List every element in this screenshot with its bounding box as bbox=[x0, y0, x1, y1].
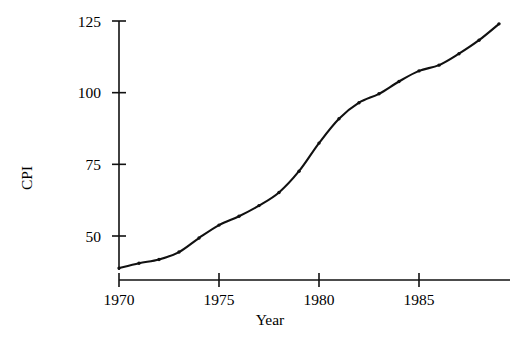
data-point-1988 bbox=[477, 39, 480, 42]
y-tick-label-75: 75 bbox=[86, 156, 102, 173]
data-point-1980 bbox=[317, 141, 320, 144]
data-point-1989 bbox=[497, 22, 500, 25]
x-tick-labels: 1970197519801985 bbox=[104, 291, 435, 308]
data-point-1978 bbox=[277, 191, 280, 194]
chart-figure: 5075100125 1970197519801985 CPI Year bbox=[0, 0, 519, 341]
y-tick-label-125: 125 bbox=[78, 13, 102, 30]
data-point-1975 bbox=[217, 223, 220, 226]
data-point-1985 bbox=[417, 69, 420, 72]
y-axis-title: CPI bbox=[18, 166, 35, 190]
data-point-1986 bbox=[437, 63, 440, 66]
x-tick-label-1975: 1975 bbox=[204, 291, 235, 308]
x-tick-label-1985: 1985 bbox=[404, 291, 435, 308]
data-point-1987 bbox=[457, 52, 460, 55]
data-point-1970 bbox=[117, 266, 120, 269]
data-point-1982 bbox=[357, 101, 360, 104]
x-tick-label-1980: 1980 bbox=[304, 291, 335, 308]
x-axis-title: Year bbox=[256, 311, 285, 328]
data-point-1971 bbox=[137, 262, 140, 265]
data-point-1984 bbox=[397, 80, 400, 83]
data-point-1979 bbox=[297, 170, 300, 173]
data-point-1973 bbox=[177, 250, 180, 253]
chart-plot-area: 5075100125 1970197519801985 CPI Year bbox=[0, 0, 519, 341]
data-point-1972 bbox=[157, 258, 160, 261]
data-point-1974 bbox=[197, 236, 200, 239]
y-tick-label-100: 100 bbox=[78, 84, 102, 101]
cpi-series-line bbox=[119, 24, 499, 268]
y-tick-label-50: 50 bbox=[86, 228, 102, 245]
data-point-1981 bbox=[337, 117, 340, 120]
data-point-1983 bbox=[377, 92, 380, 95]
data-point-1977 bbox=[257, 204, 260, 207]
y-tick-labels: 5075100125 bbox=[78, 13, 102, 245]
cpi-series-points bbox=[117, 22, 500, 270]
x-tick-label-1970: 1970 bbox=[104, 291, 135, 308]
data-point-1976 bbox=[237, 215, 240, 218]
